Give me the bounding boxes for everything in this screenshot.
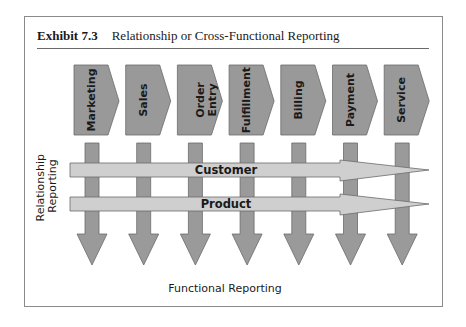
cross-functional-diagram: Exhibit 7.3 Relationship or Cross-Functi… [0, 0, 466, 327]
function-label-line: Sales [137, 83, 150, 117]
function-label-line: Billing [292, 80, 305, 119]
function-label-line: Service [395, 77, 408, 123]
function-label: Payment [344, 73, 357, 127]
relationship-label: Customer [195, 163, 258, 177]
exhibit-number: Exhibit 7.3 [37, 28, 98, 43]
exhibit-title-text: Relationship or Cross-Functional Reporti… [112, 28, 340, 43]
function-label: Service [395, 77, 408, 123]
function-label: Billing [292, 80, 305, 119]
function-label: Marketing [85, 68, 98, 131]
functional-reporting-label: Functional Reporting [168, 282, 282, 295]
function-label-line: Marketing [85, 68, 98, 131]
axis-label-line-2: Reporting [46, 159, 59, 212]
function-label: OrderEntry [194, 82, 219, 118]
function-label: Fulfillment [240, 67, 253, 133]
relationship-reporting-label: Relationship Reporting [34, 150, 59, 221]
function-label: Sales [137, 83, 150, 117]
function-label-line: Payment [344, 73, 357, 127]
relationship-label: Product [201, 197, 252, 211]
exhibit-title: Exhibit 7.3 Relationship or Cross-Functi… [37, 26, 340, 43]
function-label-line: Entry [206, 83, 219, 116]
function-label-line: Fulfillment [240, 67, 253, 133]
